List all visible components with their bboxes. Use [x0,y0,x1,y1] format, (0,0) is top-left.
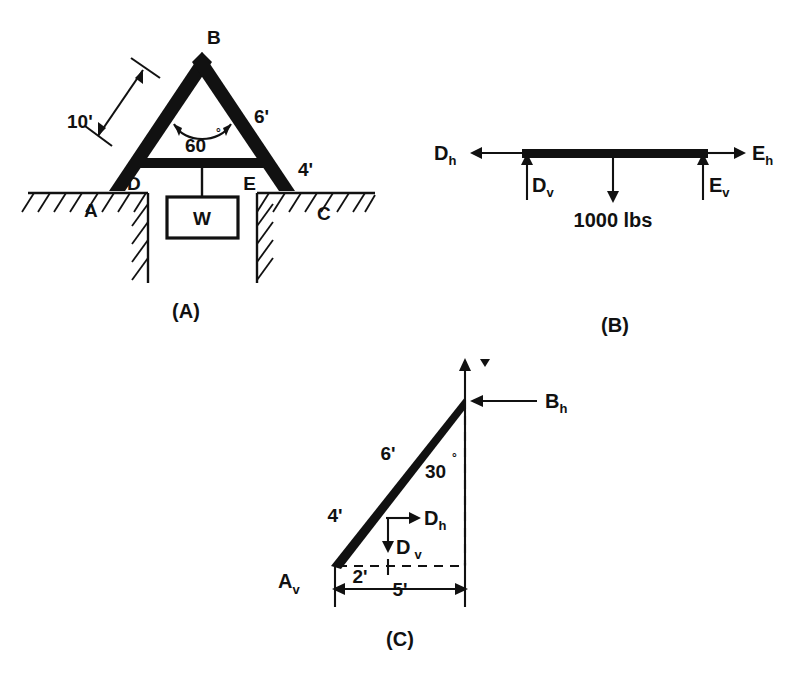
force-ev-label: Ev [709,174,730,200]
force-bh-label: Bh [545,390,567,416]
force-bh: Bh [470,390,567,416]
dimension-2ft: 2' [352,559,388,587]
force-dh-c-label: Dh [424,507,446,533]
angle-60: 60 ° [174,124,231,156]
angle-60-degree-symbol: ° [216,126,221,140]
point-label-b: B [207,27,221,48]
point-label-c: C [317,203,331,224]
force-dv: Dv [521,153,554,200]
dimension-4ft-label-a: 4' [298,159,313,180]
force-dv-c-label: Dv [396,536,422,562]
dimension-10ft-label: 10' [67,111,93,132]
panel-a-caption: (A) [172,300,200,322]
figure-page: W 10' 60 ° B A D E [0,0,802,675]
panel-a: W 10' 60 ° B A D E [22,27,375,322]
engineering-figure: W 10' 60 ° B A D E [0,0,802,675]
dimension-2ft-label: 2' [352,566,367,587]
load-box-label: W [193,208,211,229]
point-label-a: A [84,200,98,221]
point-label-e: E [243,173,256,194]
force-dv-label: Dv [532,174,554,200]
angle-30-degree-symbol: ° [452,451,457,465]
dimension-6ft-label-c: 6' [380,443,395,464]
force-dh-c: Dh [386,507,446,533]
panel-b: Dh Dv 1000 lbs E [434,142,773,336]
ground-right [257,193,375,283]
point-label-d: D [127,173,141,194]
vertical-axis [459,358,490,565]
dimension-4ft-label-c: 4' [327,505,342,526]
suspended-load: W [167,168,238,238]
force-av: Av [278,570,300,597]
panel-c-caption: (C) [386,628,414,650]
force-eh: Eh [708,142,773,168]
applied-load-label: 1000 lbs [574,209,653,231]
force-av-label: Av [278,570,300,597]
panel-c: Bh Dh Dv Av [278,358,567,650]
force-dh: Dh [434,142,522,168]
dimension-6ft-label-a: 6' [254,106,269,127]
force-eh-label: Eh [752,142,773,168]
dimension-10ft: 10' [67,58,160,146]
dimension-5ft-label: 5' [392,579,407,600]
angle-30-label: 30 [425,461,446,482]
beam-de [522,149,708,158]
force-dv-c: Dv [382,518,422,562]
angle-30: 30 ° [425,451,457,482]
force-dh-label: Dh [434,142,456,168]
applied-load-1000lbs: 1000 lbs [574,158,653,231]
force-ev: Ev [697,153,730,200]
angle-60-label: 60 [185,135,206,156]
panel-b-caption: (B) [601,314,629,336]
